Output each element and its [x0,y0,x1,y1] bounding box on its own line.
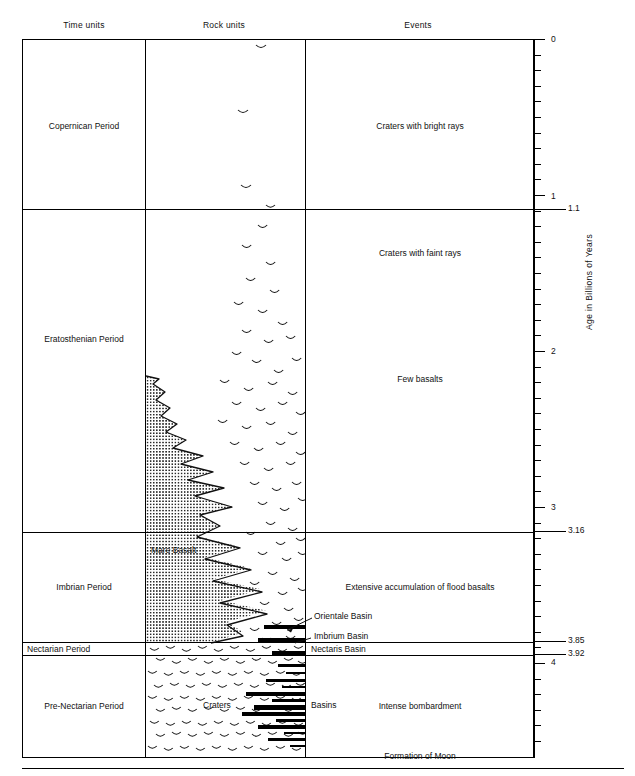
axis-tick-4-5 [534,741,541,742]
axis-tick-2-2 [534,382,541,383]
axis-tick-0-4 [534,101,541,102]
event-few-basalts: Few basalts [397,374,442,384]
timescale-frame: Copernican Period Eratosthenian Period I… [22,39,534,758]
axis-tick-3-5 [534,585,541,586]
axis-tick-0-1 [534,55,541,56]
axis-boundary-connector-3-92 [534,654,566,655]
axis-tick-0-3 [534,86,541,87]
divider-rock-events [305,40,306,757]
axis-tick-2-1 [534,367,541,368]
time-unit-copernican: Copernican Period [49,121,119,131]
boundary-line-3-16 [23,532,533,533]
axis-tick-2-9 [534,491,541,492]
axis-tick-2-3 [534,398,541,399]
boundary-line-3-85 [23,642,533,643]
axis-title: Age in Billions of Years [584,234,594,330]
basin-label-orientale: Orientale Basin [314,611,372,621]
axis-tick-1-4 [534,257,541,258]
axis-label-1: 1 [551,191,556,201]
event-craters-bright-rays: Craters with bright rays [376,121,463,131]
time-unit-pre-nectarian: Pre-Nectarian Period [44,701,123,711]
axis-tick-2-8 [534,476,541,477]
axis-label-1-1: 1.1 [568,203,580,213]
basin-bar [276,719,305,722]
axis-tick-3-1 [534,523,541,524]
axis-tick-3 [534,507,545,508]
bottom-rule [22,768,624,769]
column-header-time-units: Time units [63,20,104,30]
axis-tick-1-5 [534,273,541,274]
axis-tick-2-6 [534,445,541,446]
axis-tick-2-4 [534,413,541,414]
axis-label-2: 2 [551,346,556,356]
axis-tick-1-1 [534,211,541,212]
basin-bar [272,699,305,702]
basin-bar [284,732,305,734]
axis-tick-4-4 [534,725,541,726]
axis-tick-1-7 [534,304,541,305]
axis-tick-2-5 [534,429,541,430]
basin-bar [268,738,305,741]
axis-tick-0 [534,39,545,40]
axis-tick-2 [534,351,545,352]
axis-tick-4-2 [534,694,541,695]
basin-bar [246,692,305,696]
basin-bar-orientale [264,625,305,629]
event-intense-bombardment: Intense bombardment [379,701,462,711]
axis-label-4: 4 [551,657,556,667]
basin-bar [266,679,305,682]
axis-tick-3-4 [534,569,541,570]
rock-units-column [146,40,305,757]
basin-bar [278,664,305,667]
axis-tick-4-3 [534,710,541,711]
axis-tick-1-8 [534,320,541,321]
axis-boundary-connector-3-16 [534,531,566,532]
boundary-line-1-1 [23,209,533,210]
rock-unit-label-craters: Craters [203,700,231,710]
axis-tick-2-7 [534,460,541,461]
rock-unit-label-basins: Basins [311,700,337,710]
column-header-rock-units: Rock units [203,20,245,30]
basin-bar [282,686,305,688]
event-formation-of-moon: Formation of Moon [384,751,455,761]
time-unit-imbrian: Imbrian Period [56,582,111,592]
axis-tick-1-6 [534,289,541,290]
column-header-events: Events [404,20,432,30]
axis-tick-1-3 [534,242,541,243]
axis-tick-3-6 [534,601,541,602]
axis-tick-1 [534,195,545,196]
basin-bar [254,705,305,710]
axis-tick-0-6 [534,133,541,134]
time-unit-eratosthenian: Eratosthenian Period [44,334,123,344]
axis-tick-0-5 [534,117,541,118]
basin-bar [258,725,305,729]
boundary-line-3-92 [23,655,533,656]
basin-label-imbrium: Imbrium Basin [314,631,368,641]
axis-label-3: 3 [551,502,556,512]
axis-tick-3-7 [534,616,541,617]
axis-label-3-85: 3.85 [568,635,585,645]
axis-tick-3-9 [534,647,541,648]
axis-tick-4 [534,663,545,664]
time-unit-nectarian: Nectarian Period [27,644,90,654]
axis-label-0: 0 [551,34,556,44]
axis-tick-3-3 [534,554,541,555]
axis-tick-0-9 [534,179,541,180]
axis-boundary-connector-3-85 [534,641,566,642]
event-craters-faint-rays: Craters with faint rays [379,248,461,258]
rock-unit-label-mare-basalt: Mare Basalt [151,545,196,555]
axis-tick-0-8 [534,164,541,165]
axis-tick-0-7 [534,148,541,149]
axis-tick-3-8 [534,632,541,633]
axis-label-3-16: 3.16 [568,525,585,535]
mare-basalt-contact-line [146,40,305,757]
basin-bar [286,672,305,674]
axis-tick-1-9 [534,335,541,336]
event-flood-basalts: Extensive accumulation of flood basalts [346,582,495,592]
axis-tick-1-2 [534,226,541,227]
basin-bar [290,745,305,747]
axis-boundary-connector-1-1 [534,209,566,210]
basin-bar [242,712,305,716]
axis-tick-0-2 [534,70,541,71]
axis-tick-3-2 [534,538,541,539]
